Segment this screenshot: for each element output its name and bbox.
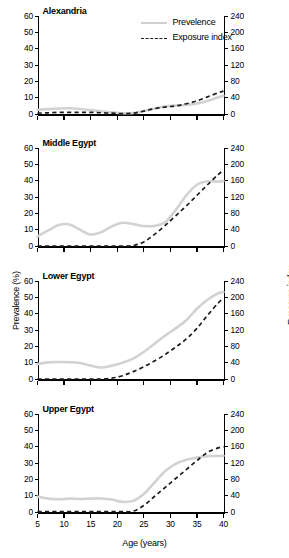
y-left-tick xyxy=(35,512,38,513)
left-axis-spine xyxy=(38,148,39,246)
y-right-tick-label: 160 xyxy=(231,176,255,184)
y-right-tick-label: 40 xyxy=(231,491,255,499)
y-right-tick xyxy=(225,16,228,17)
figure-multi-panel-chart: Alexandria010203040506004080120160200240… xyxy=(0,0,289,558)
y-right-tick xyxy=(225,430,228,431)
y-right-tick-label: 40 xyxy=(231,225,255,233)
y-left-tick xyxy=(35,362,38,363)
x-tick xyxy=(63,381,64,385)
series-exposure-index xyxy=(38,447,224,512)
left-axis-spine xyxy=(38,16,39,114)
y-left-tick xyxy=(35,32,38,33)
y-right-tick-label: 80 xyxy=(231,77,255,85)
y-left-tick-label: 60 xyxy=(14,144,33,152)
y-right-tick xyxy=(225,65,228,66)
y-left-tick xyxy=(35,330,38,331)
y-right-tick-label: 80 xyxy=(231,209,255,217)
x-tick xyxy=(117,514,118,518)
y-right-tick-label: 40 xyxy=(231,93,255,101)
left-axis-spine xyxy=(38,281,39,379)
x-tick xyxy=(196,514,197,518)
y-right-tick-label: 0 xyxy=(231,375,255,383)
y-right-tick xyxy=(225,463,228,464)
y-left-tick xyxy=(35,479,38,480)
x-tick xyxy=(196,381,197,385)
y-left-tick xyxy=(35,430,38,431)
y-right-tick xyxy=(225,346,228,347)
x-tick xyxy=(196,248,197,252)
y-left-tick-label: 10 xyxy=(14,225,33,233)
legend-item: Prevelence xyxy=(141,18,261,28)
y-right-tick xyxy=(225,197,228,198)
y-left-tick-label: 20 xyxy=(14,475,33,483)
x-tick xyxy=(170,116,171,120)
y-left-tick xyxy=(35,346,38,347)
y-left-tick xyxy=(35,65,38,66)
legend-item: Exposure index xyxy=(141,33,261,43)
x-tick xyxy=(37,381,38,385)
y-left-tick xyxy=(35,97,38,98)
y-right-tick-label: 160 xyxy=(231,44,255,52)
x-tick xyxy=(196,116,197,120)
y-left-tick xyxy=(35,16,38,17)
y-right-tick xyxy=(225,229,228,230)
y-right-tick xyxy=(225,164,228,165)
y-axis-right-title: Exposure index xyxy=(286,266,289,325)
x-tick-label: 15 xyxy=(79,520,103,528)
y-left-tick xyxy=(35,297,38,298)
x-tick xyxy=(143,381,144,385)
y-left-tick-label: 30 xyxy=(14,193,33,201)
y-left-tick-label: 0 xyxy=(14,375,33,383)
y-right-tick xyxy=(225,479,228,480)
x-tick xyxy=(117,116,118,120)
y-right-tick xyxy=(225,495,228,496)
x-tick xyxy=(170,514,171,518)
y-right-tick-label: 200 xyxy=(231,293,255,301)
y-left-tick xyxy=(35,495,38,496)
y-right-tick-label: 240 xyxy=(231,277,255,285)
y-right-tick xyxy=(225,313,228,314)
x-tick xyxy=(223,514,224,518)
y-left-tick-label: 20 xyxy=(14,77,33,85)
y-left-tick-label: 30 xyxy=(14,459,33,467)
y-left-tick xyxy=(35,48,38,49)
x-tick xyxy=(223,248,224,252)
left-axis-spine xyxy=(38,414,39,512)
y-left-tick xyxy=(35,446,38,447)
x-tick xyxy=(117,381,118,385)
y-right-tick xyxy=(225,512,228,513)
y-right-tick xyxy=(225,379,228,380)
x-tick-label: 10 xyxy=(52,520,76,528)
panel-title: Alexandria xyxy=(43,6,87,16)
series-prevalence xyxy=(38,292,224,367)
y-right-tick-label: 120 xyxy=(231,61,255,69)
y-right-tick xyxy=(225,297,228,298)
y-right-tick xyxy=(225,446,228,447)
x-tick xyxy=(223,381,224,385)
y-left-tick xyxy=(35,313,38,314)
y-left-tick-label: 10 xyxy=(14,358,33,366)
x-tick-label: 40 xyxy=(212,520,236,528)
y-right-tick-label: 240 xyxy=(231,410,255,418)
y-left-tick-label: 50 xyxy=(14,426,33,434)
series-prevalence xyxy=(38,96,224,114)
series-prevalence xyxy=(38,456,224,502)
y-left-tick-label: 0 xyxy=(14,508,33,516)
y-left-tick xyxy=(35,164,38,165)
series-prevalence xyxy=(38,181,224,237)
y-left-tick xyxy=(35,197,38,198)
legend-label: Prevelence xyxy=(173,17,216,27)
panel-title: Middle Egypt xyxy=(43,138,97,148)
y-left-tick xyxy=(35,180,38,181)
y-right-tick-label: 40 xyxy=(231,358,255,366)
y-left-tick-label: 20 xyxy=(14,342,33,350)
y-left-tick xyxy=(35,246,38,247)
panel-title: Lower Egypt xyxy=(43,271,95,281)
y-right-tick-label: 80 xyxy=(231,342,255,350)
x-tick-label: 25 xyxy=(132,520,156,528)
x-tick-label: 5 xyxy=(26,520,50,528)
y-left-tick-label: 40 xyxy=(14,176,33,184)
y-left-tick-label: 20 xyxy=(14,209,33,217)
x-tick xyxy=(90,248,91,252)
y-left-tick-label: 40 xyxy=(14,442,33,450)
